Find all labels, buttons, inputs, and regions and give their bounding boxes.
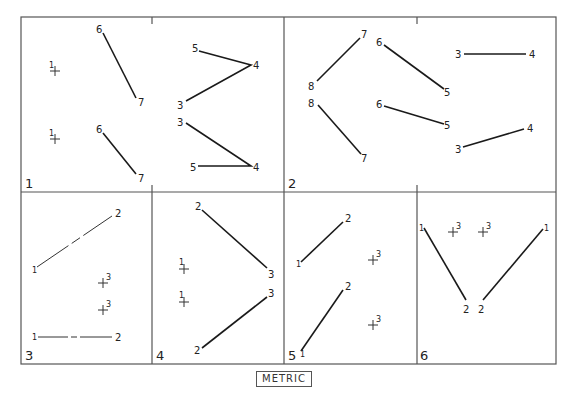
panel-number: 1 (25, 176, 33, 191)
segment-6-5 (384, 106, 444, 124)
point-label: 3 (486, 222, 491, 231)
point-label: 4 (529, 49, 535, 60)
segment-2-3 (202, 297, 267, 348)
point-label: 1 (32, 266, 37, 275)
segment-1-2 (301, 222, 343, 262)
point-label: 3 (268, 288, 274, 299)
point-label: 7 (138, 97, 144, 108)
point-label: 2 (115, 208, 121, 219)
point-label: 3 (376, 250, 381, 259)
segment-6-7 (103, 33, 136, 98)
point-label: 3 (268, 269, 274, 280)
segment-2-3 (202, 210, 267, 268)
panel-3: 3 1 2 3 3 1 2 (25, 208, 121, 363)
panel-2: 2 8 7 6 5 3 4 8 7 6 5 3 4 (288, 29, 535, 191)
segment-5-4-3 (186, 51, 251, 101)
point-label: 7 (361, 29, 367, 40)
point-label: 1 (179, 258, 184, 267)
point-label: 1 (296, 260, 301, 269)
point-label: 1 (49, 129, 54, 138)
point-label: 7 (361, 153, 367, 164)
point-label: 1 (49, 61, 54, 70)
point-label: 3 (177, 117, 183, 128)
point-label: 2 (345, 281, 351, 292)
segment-1-2 (424, 228, 466, 300)
point-label: 1 (300, 350, 305, 359)
point-label: 2 (478, 304, 484, 315)
segment-8-7 (317, 38, 360, 81)
point-label: 2 (194, 345, 200, 356)
point-label: 4 (527, 123, 533, 134)
point-label: 6 (376, 37, 382, 48)
segment-8-7 (318, 105, 361, 154)
point-label: 1 (32, 333, 37, 342)
point-label: 5 (444, 120, 450, 131)
point-label: 2 (195, 201, 201, 212)
panel-number: 4 (156, 348, 164, 363)
panel-number: 2 (288, 176, 296, 191)
point-label: 3 (106, 300, 111, 309)
panel-5: 5 1 2 3 1 2 3 (288, 213, 381, 363)
point-label: 3 (455, 49, 461, 60)
segment-3-4 (463, 129, 524, 147)
point-label: 3 (376, 315, 381, 324)
point-label: 2 (463, 304, 469, 315)
segment-3-4-5 (186, 123, 251, 166)
point-label: 6 (376, 99, 382, 110)
point-label: 6 (96, 124, 102, 135)
units-label: METRIC (256, 371, 312, 387)
panel-4: 4 2 3 1 1 2 3 (156, 201, 274, 363)
point-label: 1 (179, 291, 184, 300)
point-label: 6 (96, 24, 102, 35)
point-label: 5 (190, 162, 196, 173)
panel-number: 5 (288, 348, 296, 363)
segment-6-5 (384, 45, 444, 89)
point-label: 3 (456, 222, 461, 231)
point-label: 3 (177, 100, 183, 111)
panel-number: 6 (420, 348, 428, 363)
point-label: 5 (444, 87, 450, 98)
panel-1: 1 1 6 7 5 4 3 1 6 7 3 4 5 (25, 24, 259, 191)
segment-1-2 (301, 290, 343, 351)
point-label: 4 (253, 162, 259, 173)
panel-6: 6 1 2 3 3 1 2 (419, 222, 549, 363)
point-label: 1 (419, 224, 424, 233)
point-label: 8 (308, 98, 314, 109)
segment-1-2 (483, 229, 543, 300)
point-label: 8 (308, 81, 314, 92)
point-label: 5 (192, 43, 198, 54)
diagram-canvas: 1 1 6 7 5 4 3 1 6 7 3 4 5 2 8 7 (0, 0, 564, 402)
dashed-segment-1-2 (37, 216, 112, 267)
point-label: 3 (455, 144, 461, 155)
panel-number: 3 (25, 348, 33, 363)
point-label: 2 (345, 213, 351, 224)
point-label: 3 (106, 273, 111, 282)
point-label: 7 (138, 173, 144, 184)
point-label: 2 (115, 332, 121, 343)
point-label: 1 (544, 224, 549, 233)
point-label: 4 (253, 60, 259, 71)
segment-6-7 (103, 133, 136, 174)
